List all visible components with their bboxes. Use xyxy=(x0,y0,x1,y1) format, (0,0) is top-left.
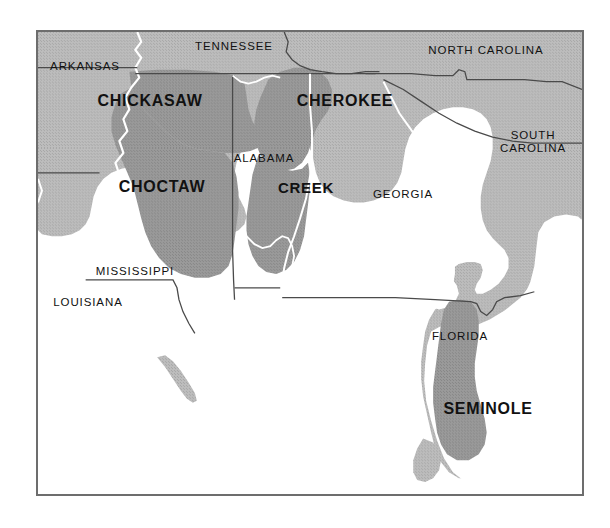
map-page: ARKANSAS TENNESSEE NORTH CAROLINA SOUTH … xyxy=(0,0,610,528)
map-graphic xyxy=(38,32,582,494)
map-frame: ARKANSAS TENNESSEE NORTH CAROLINA SOUTH … xyxy=(36,30,584,496)
